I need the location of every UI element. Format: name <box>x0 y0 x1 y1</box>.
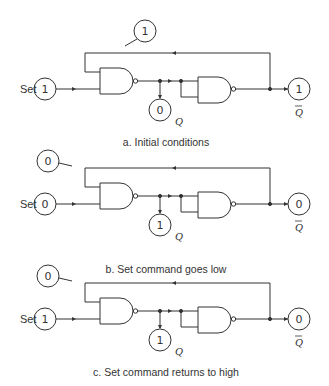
set-label: Set <box>20 198 37 210</box>
set-value: 1 <box>42 83 49 96</box>
feedback-indicator <box>37 150 72 172</box>
qbar-value: 0 <box>296 198 303 211</box>
panel-a-text: Set 1 1 0 Q 1 Q a. Initial conditions <box>20 25 303 148</box>
set-label: Set <box>20 83 37 95</box>
panel-b <box>34 150 310 236</box>
panel-c <box>34 265 310 351</box>
qbar-label: Q <box>295 221 303 233</box>
q-value: 1 <box>157 219 164 232</box>
set-value: 0 <box>42 198 49 211</box>
set-label: Set <box>20 313 37 325</box>
feedback-indicator <box>37 265 72 287</box>
feedback-value: 0 <box>45 270 52 283</box>
qbar-value: 0 <box>296 313 303 326</box>
qbar-value: 1 <box>296 83 303 96</box>
latch-circuit <box>34 51 310 121</box>
caption: a. Initial conditions <box>123 136 209 148</box>
feedback-indicator <box>125 20 156 46</box>
panel-c-text: Set 1 0 1 Q 0 Q c. Set command returns t… <box>20 270 303 378</box>
q-value: 0 <box>157 104 164 117</box>
feedback-value: 1 <box>142 25 149 38</box>
qbar-label: Q <box>295 106 303 118</box>
latch-diagram: Set 1 1 0 Q 1 Q a. Initial conditions Se… <box>0 0 329 386</box>
panel-b-text: Set 0 0 1 Q 0 Q b. Set command goes low <box>20 155 303 275</box>
latch-circuit <box>34 281 310 351</box>
latch-circuit <box>34 166 310 236</box>
q-label: Q <box>175 115 183 127</box>
feedback-value: 0 <box>45 155 52 168</box>
qbar-label: Q <box>295 336 303 348</box>
q-label: Q <box>175 345 183 357</box>
caption: b. Set command goes low <box>106 263 227 275</box>
set-value: 1 <box>42 313 49 326</box>
caption: c. Set command returns to high <box>93 366 239 378</box>
diagram-canvas: Set 1 1 0 Q 1 Q a. Initial conditions Se… <box>0 0 329 386</box>
panel-a <box>34 20 310 121</box>
q-value: 1 <box>157 334 164 347</box>
q-label: Q <box>175 230 183 242</box>
